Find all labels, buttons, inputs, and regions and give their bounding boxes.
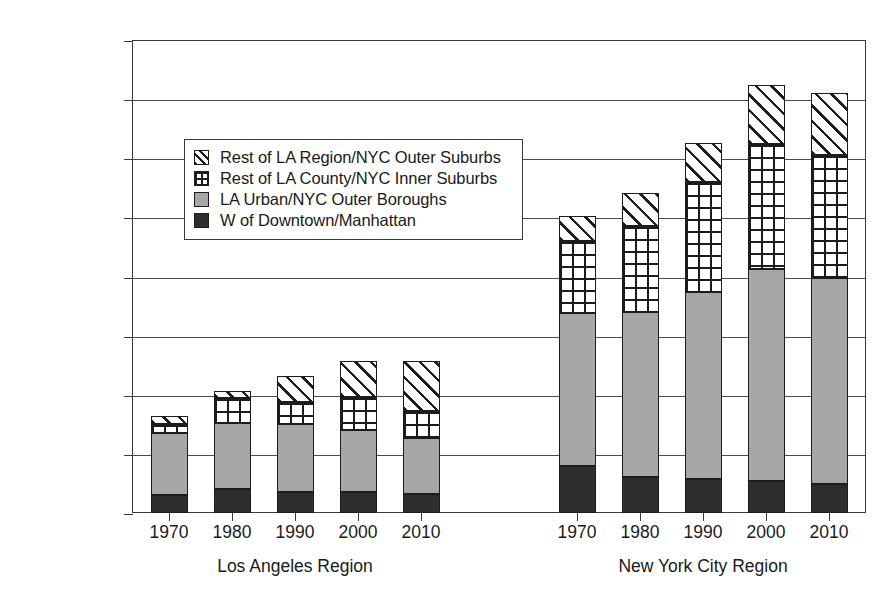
bar-segment: [559, 241, 596, 313]
bar-segment: [559, 313, 596, 466]
bar-segment: [748, 481, 785, 513]
bar-segment: [340, 397, 377, 430]
x-tick-mark: [766, 513, 767, 521]
bar-segment: [151, 495, 188, 513]
legend-item-label: Rest of LA County/NYC Inner Suburbs: [220, 169, 497, 188]
y-tick-mark: [124, 455, 133, 456]
legend-item: Rest of LA Region/NYC Outer Suburbs: [194, 147, 513, 168]
bar-segment: [622, 477, 659, 513]
stacked-bar: [622, 40, 659, 513]
legend-swatch-icon: [194, 192, 209, 207]
bar-segment: [685, 182, 722, 291]
bar-segment: [685, 479, 722, 513]
legend-item-label: W of Downtown/Manhattan: [220, 211, 416, 230]
chart-legend: Rest of LA Region/NYC Outer SuburbsRest …: [184, 139, 523, 240]
bar-segment: [340, 361, 377, 397]
bar-segment: [403, 361, 440, 411]
bar-segment: [340, 430, 377, 492]
bar-segment: [811, 93, 848, 155]
legend-item: Rest of LA County/NYC Inner Suburbs: [194, 168, 513, 189]
y-tick-mark: [124, 41, 133, 42]
bar-segment: [277, 402, 314, 424]
stacked-bar: [811, 40, 848, 513]
x-axis-tick-label: 2010: [376, 522, 466, 543]
stacked-bar: [340, 40, 377, 513]
x-tick-mark: [421, 513, 422, 521]
bar-segment: [151, 433, 188, 495]
bar-segment: [214, 489, 251, 513]
x-tick-mark: [577, 513, 578, 521]
bar-segment: [748, 85, 785, 144]
stacked-bar: [748, 40, 785, 513]
stacked-bar: [685, 40, 722, 513]
bar-segment: [622, 193, 659, 225]
bar-segment: [277, 424, 314, 492]
x-tick-mark: [640, 513, 641, 521]
x-tick-mark: [358, 513, 359, 521]
bar-segment: [214, 423, 251, 489]
x-tick-mark: [829, 513, 830, 521]
bar-segment: [685, 143, 722, 183]
y-tick-mark: [124, 100, 133, 101]
bar-segment: [403, 411, 440, 438]
y-tick-mark: [124, 396, 133, 397]
bar-segment: [151, 424, 188, 433]
bar-segment: [214, 398, 251, 423]
bar-segment: [151, 416, 188, 424]
bar-segment: [214, 391, 251, 398]
bar-segment: [622, 226, 659, 312]
x-axis-tick-label: 2010: [784, 522, 874, 543]
stacked-bar: [559, 40, 596, 513]
y-tick-mark: [124, 218, 133, 219]
y-tick-mark: [124, 278, 133, 279]
bar-segment: [403, 494, 440, 513]
stacked-bar: [214, 40, 251, 513]
stacked-bar-chart: 0500,0001,000,0001,500,0002,000,0002,500…: [0, 0, 890, 607]
bar-segment: [811, 484, 848, 513]
legend-item-label: LA Urban/NYC Outer Boroughs: [220, 190, 447, 209]
group-label: New York City Region: [543, 556, 863, 577]
bar-segment: [277, 376, 314, 402]
bar-segment: [559, 466, 596, 513]
x-tick-mark: [703, 513, 704, 521]
x-tick-mark: [295, 513, 296, 521]
bar-segment: [559, 216, 596, 241]
bar-segment: [277, 492, 314, 513]
y-tick-mark: [124, 337, 133, 338]
stacked-bar: [277, 40, 314, 513]
bar-segment: [811, 278, 848, 484]
legend-item: LA Urban/NYC Outer Boroughs: [194, 189, 513, 210]
bar-segment: [622, 312, 659, 477]
legend-item: W of Downtown/Manhattan: [194, 210, 513, 231]
x-tick-mark: [169, 513, 170, 521]
legend-swatch-icon: [194, 171, 209, 186]
bar-segment: [748, 144, 785, 268]
legend-swatch-icon: [194, 150, 209, 165]
legend-item-label: Rest of LA Region/NYC Outer Suburbs: [220, 148, 501, 167]
bar-segment: [811, 155, 848, 278]
bar-segment: [685, 292, 722, 479]
x-tick-mark: [232, 513, 233, 521]
y-tick-mark: [124, 514, 133, 515]
bar-segment: [748, 269, 785, 481]
group-label: Los Angeles Region: [135, 556, 455, 577]
legend-swatch-icon: [194, 213, 209, 228]
stacked-bar: [403, 40, 440, 513]
stacked-bar: [151, 40, 188, 513]
bar-segment: [403, 438, 440, 494]
y-tick-mark: [124, 159, 133, 160]
bar-segment: [340, 492, 377, 513]
